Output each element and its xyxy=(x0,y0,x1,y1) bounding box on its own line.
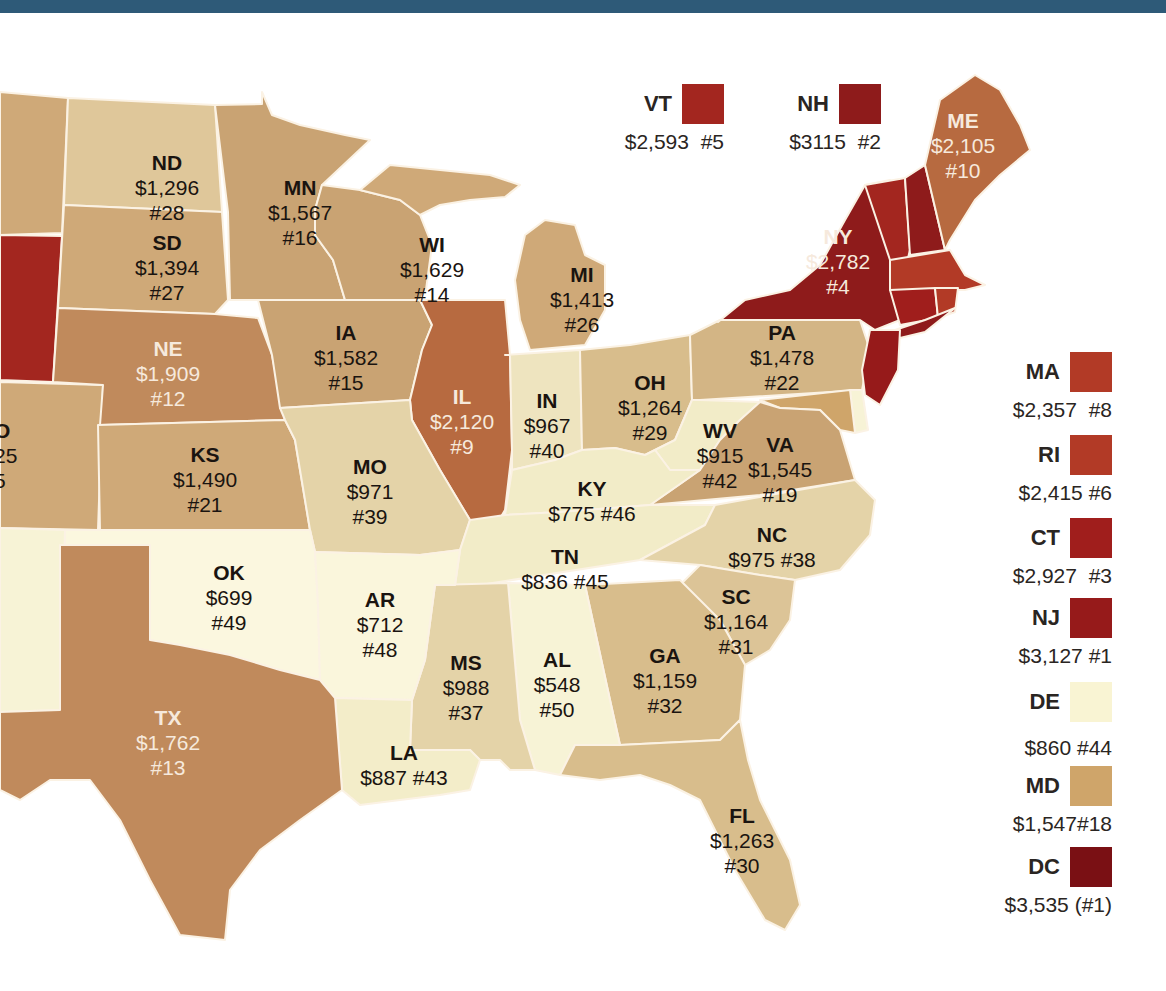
state-label-mi: MI$1,413#26 xyxy=(550,262,614,337)
state-mt-partial xyxy=(0,92,68,235)
state-label-ga: GA$1,159#32 xyxy=(633,643,697,718)
legend-item-nj: NJ $3,127 #1 xyxy=(990,598,1112,668)
state-wy-partial xyxy=(0,235,62,382)
state-label-sd: SD$1,394#27 xyxy=(135,230,199,305)
state-label-ok: OK$699#49 xyxy=(206,560,253,635)
state-label-me: ME$2,105#10 xyxy=(931,108,995,183)
legend-swatch xyxy=(1070,847,1112,887)
state-label-ky: KY$775 #46 xyxy=(548,476,636,526)
legend-item-ri: RI $2,415 #6 xyxy=(990,435,1112,505)
legend-swatch xyxy=(1070,766,1112,806)
state-label-va: VA$1,545#19 xyxy=(748,432,812,507)
legend-item-ma: MA $2,357 #8 xyxy=(990,352,1112,422)
legend-item-nh: NH $3115 #2 xyxy=(775,84,881,154)
state-label-co-partial: O255 xyxy=(0,418,17,493)
legend-swatch xyxy=(1070,518,1112,558)
state-label-wi: WI$1,629#14 xyxy=(400,232,464,307)
state-label-oh: OH$1,264#29 xyxy=(618,370,682,445)
state-label-al: AL$548#50 xyxy=(534,647,581,722)
legend-swatch xyxy=(1070,352,1112,392)
legend-swatch xyxy=(1070,682,1112,722)
legend-swatch xyxy=(839,84,881,124)
legend-item-de: DE $860 #44 xyxy=(990,682,1112,760)
state-nm-partial xyxy=(0,528,65,712)
legend-swatch xyxy=(1070,598,1112,638)
state-label-mn: MN$1,567#16 xyxy=(268,175,332,250)
legend-item-dc: DC $3,535 (#1) xyxy=(970,847,1112,917)
state-nj xyxy=(862,330,900,405)
state-label-nd: ND$1,296#28 xyxy=(135,150,199,225)
state-label-nc: NC$975 #38 xyxy=(728,522,816,572)
state-label-sc: SC$1,164#31 xyxy=(704,584,768,659)
state-label-ks: KS$1,490#21 xyxy=(173,442,237,517)
legend-item-vt: VT $2,593 #5 xyxy=(612,84,724,154)
state-label-mo: MO$971#39 xyxy=(347,454,394,529)
legend-item-ct: CT $2,927 #3 xyxy=(990,518,1112,588)
state-label-tn: TN$836 #45 xyxy=(521,544,609,594)
state-label-in: IN$967#40 xyxy=(524,388,571,463)
state-label-ar: AR$712#48 xyxy=(357,587,404,662)
state-label-la: LA$887 #43 xyxy=(360,740,448,790)
state-label-ia: IA$1,582#15 xyxy=(314,320,378,395)
legend-swatch xyxy=(682,84,724,124)
legend-item-md: MD $1,547#18 xyxy=(970,766,1112,836)
state-label-ny: NY$2,782#4 xyxy=(806,224,870,299)
state-label-il: IL$2,120#9 xyxy=(430,384,494,459)
state-label-ms: MS$988#37 xyxy=(443,650,490,725)
legend-swatch xyxy=(1070,435,1112,475)
state-label-ne: NE$1,909#12 xyxy=(136,336,200,411)
state-label-pa: PA$1,478#22 xyxy=(750,320,814,395)
state-label-wv: WV$915#42 xyxy=(697,418,744,493)
state-label-tx: TX$1,762#13 xyxy=(136,705,200,780)
state-label-fl: FL$1,263#30 xyxy=(710,803,774,878)
